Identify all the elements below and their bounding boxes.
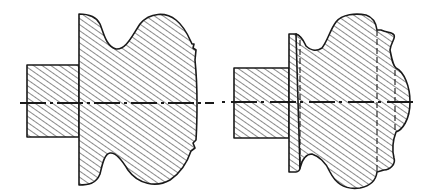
left-shank bbox=[27, 65, 79, 137]
right-figure bbox=[222, 14, 415, 188]
diagram-canvas bbox=[0, 0, 438, 195]
left-figure bbox=[20, 14, 214, 185]
left-body bbox=[79, 14, 197, 185]
